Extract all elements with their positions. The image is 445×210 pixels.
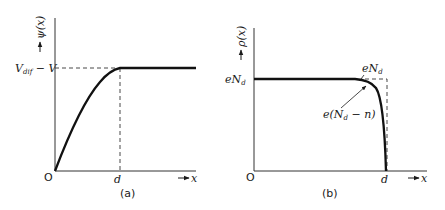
origin-label: O xyxy=(246,171,255,184)
d-tick-label: d xyxy=(381,173,388,186)
charge-density-curve xyxy=(254,79,386,171)
level-label: eNd xyxy=(225,73,246,87)
annotation-arrow-icon xyxy=(341,86,366,108)
caption-a: (a) xyxy=(120,187,135,200)
level-label: Vdif − V xyxy=(15,62,57,76)
d-tick-label: d xyxy=(114,173,121,186)
y-axis-label: ψ(x) xyxy=(34,16,47,39)
annotation-ideal-pointer xyxy=(361,75,364,79)
origin-label: O xyxy=(44,171,53,184)
panel-b: ρ(x) eNd eNd e(Nd − n) O d x (b) xyxy=(225,26,428,200)
y-axis-label: ρ(x) xyxy=(235,26,248,48)
annotation-ideal: eNd xyxy=(362,62,383,76)
x-axis-label: x xyxy=(191,172,198,185)
caption-b: (b) xyxy=(322,187,338,200)
x-axis-label: x xyxy=(421,172,428,185)
potential-curve xyxy=(55,68,196,171)
panel-a: ψ(x) Vdif − V O d x (a) xyxy=(15,16,198,200)
annotation-actual: e(Nd − n) xyxy=(323,108,376,122)
depletion-diagram: ψ(x) Vdif − V O d x (a) ρ(x) eNd xyxy=(0,0,445,210)
